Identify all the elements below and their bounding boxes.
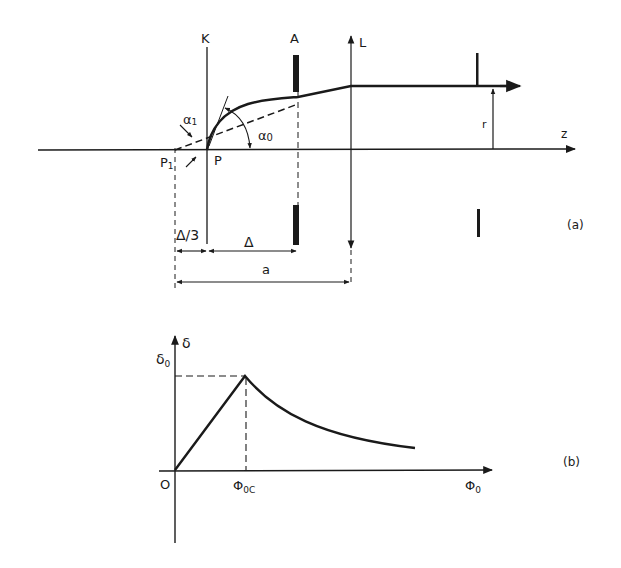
phi0c-label: Φ0C	[233, 478, 255, 495]
delta-axis-label: δ	[182, 335, 191, 351]
trajectory-curve	[207, 86, 515, 150]
delta0-label: δ0	[156, 351, 171, 369]
figure-b-label: (b)	[563, 455, 580, 469]
phi0-axis-label: Φ0	[465, 478, 481, 495]
radius-r-label: r	[482, 118, 487, 131]
image-plane-lower-bar	[477, 209, 480, 237]
plane-K-label: K	[201, 31, 210, 46]
alpha0-label: α0	[258, 128, 273, 143]
figure-b: δ δ0 O Φ0C Φ0 (b)	[156, 335, 580, 543]
figure-a-label: (a)	[567, 218, 584, 232]
figure-canvas: z K A L r α0 α1 P1	[0, 0, 621, 568]
lens-L-label: L	[359, 35, 367, 50]
figure-a: z K A L r α0 α1 P1	[38, 31, 584, 288]
z-axis	[38, 149, 575, 150]
aperture-A-label: A	[290, 31, 299, 46]
dim-a-label: a	[262, 262, 270, 277]
image-plane-upper-bar	[476, 53, 479, 86]
dim-delta-label: Δ	[244, 234, 254, 250]
dim-delta-third-label: Δ/3	[176, 227, 199, 243]
z-axis-label: z	[561, 127, 567, 141]
tangent-line	[209, 96, 228, 146]
alpha1-arrow-lower	[186, 157, 196, 167]
asymptote-dashed	[175, 104, 298, 150]
P1-label: P1	[160, 155, 174, 171]
aperture-A-lower-bar	[293, 205, 299, 245]
delta-curve	[175, 376, 415, 470]
aperture-A-upper-bar	[293, 55, 299, 92]
phi-x-axis	[159, 470, 492, 471]
alpha1-label: α1	[183, 112, 197, 127]
origin-label: O	[160, 477, 170, 492]
P-label: P	[214, 153, 222, 168]
